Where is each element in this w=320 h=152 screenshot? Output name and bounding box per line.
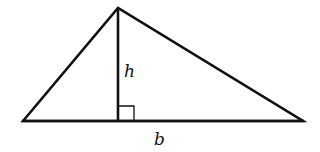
triangle-diagram: h b: [0, 0, 320, 152]
right-angle-marker: [118, 106, 134, 121]
height-label: h: [124, 63, 135, 80]
base-label: b: [154, 131, 165, 148]
triangle-outline: [23, 8, 303, 121]
